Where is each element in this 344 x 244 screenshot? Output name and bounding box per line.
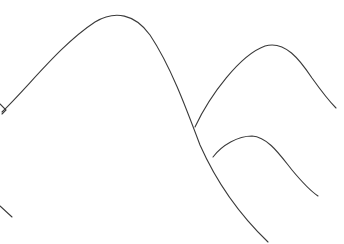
left-lower-line: [0, 206, 12, 217]
third-peak-line: [213, 136, 318, 196]
second-peak-line: [195, 45, 336, 127]
main-peak-line: [2, 15, 268, 242]
left-tick: [0, 104, 6, 114]
mountain-sketch: [0, 0, 344, 244]
